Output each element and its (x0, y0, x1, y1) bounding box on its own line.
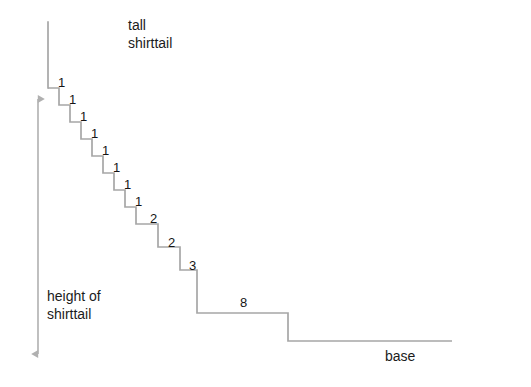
caption-tall-shirttail: tall shirttail (128, 17, 172, 53)
step-label-1c: 1 (80, 109, 87, 126)
caption-height-of-shirttail: height of shirttail (47, 288, 101, 324)
step-label-1f: 1 (113, 160, 120, 177)
step-label-1b: 1 (69, 92, 76, 109)
step-label-1a: 1 (58, 75, 65, 92)
step-label-1g: 1 (124, 177, 131, 194)
step-label-1h: 1 (135, 194, 142, 211)
caption-base: base (385, 348, 415, 366)
step-label-8: 8 (240, 295, 247, 312)
step-label-2a: 2 (150, 211, 157, 228)
step-label-3: 3 (189, 258, 196, 275)
shirttail-diagram: 1 1 1 1 1 1 1 1 2 2 3 8 tall shirttail h… (0, 0, 531, 387)
staircase-drawing (0, 0, 531, 387)
staircase-polyline (48, 88, 452, 341)
step-label-2b: 2 (168, 235, 175, 252)
step-label-1e: 1 (102, 143, 109, 160)
step-label-1d: 1 (91, 126, 98, 143)
